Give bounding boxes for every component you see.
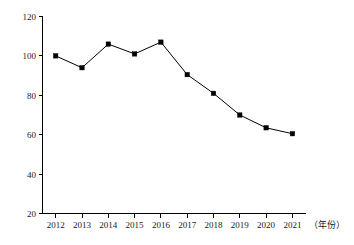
y-tick-label: 120: [23, 12, 37, 22]
data-point-marker: [185, 72, 189, 76]
x-tick-label: 2019: [231, 220, 250, 230]
data-point-marker: [264, 126, 268, 130]
y-tick-label: 40: [27, 170, 37, 180]
data-point-marker: [54, 54, 58, 58]
x-tick-label: 2017: [178, 220, 197, 230]
y-tick-label: 100: [23, 51, 37, 61]
x-tick-label: 2020: [257, 220, 276, 230]
x-tick-label: 2013: [73, 220, 92, 230]
chart-background: [0, 0, 354, 245]
x-tick-label: 2012: [47, 220, 65, 230]
x-axis-caption: （年份）: [309, 219, 345, 230]
data-point-marker: [106, 42, 110, 46]
data-point-marker: [290, 132, 294, 136]
line-chart: 120 100 80 60 40 20 2012 2013 2014 2015: [0, 0, 354, 245]
data-point-marker: [238, 113, 242, 117]
data-point-marker: [80, 66, 84, 70]
y-tick-label: 20: [27, 209, 37, 219]
data-point-marker: [159, 40, 163, 44]
x-tick-label: 2021: [283, 220, 301, 230]
y-tick-label: 60: [27, 130, 37, 140]
data-point-marker: [211, 91, 215, 95]
data-point-marker: [132, 52, 136, 56]
x-tick-label: 2018: [205, 220, 224, 230]
x-tick-label: 2015: [126, 220, 145, 230]
y-tick-label: 80: [27, 91, 37, 101]
x-tick-label: 2014: [99, 220, 118, 230]
chart-canvas: 120 100 80 60 40 20 2012 2013 2014 2015: [0, 0, 354, 245]
x-tick-label: 2016: [152, 220, 171, 230]
